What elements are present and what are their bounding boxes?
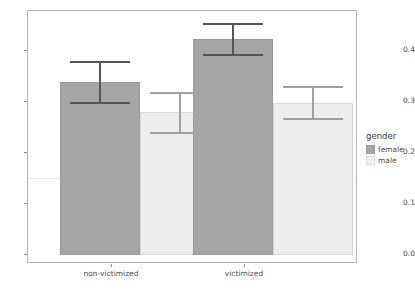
legend-swatch-female	[366, 145, 375, 154]
y-tick-label-3: 0.3	[393, 97, 415, 105]
bar-victimized-male	[273, 103, 353, 255]
x-tick-label-victimized: victimized	[225, 269, 263, 278]
bar-non-victimized-female	[60, 82, 140, 255]
y-tick-label-4: 0.4	[393, 46, 415, 54]
legend-title: gender	[366, 131, 415, 142]
errorbar-victimized-female	[203, 23, 263, 56]
x-tick-mark-1	[244, 264, 245, 267]
x-tick-mark-0	[111, 264, 112, 267]
bar-victimized-female	[193, 39, 273, 255]
y-tick-label-1: 0.1	[393, 199, 415, 207]
errorbar-stem	[232, 23, 234, 56]
errorbar-stem	[99, 61, 101, 104]
legend-label-female: female	[378, 145, 404, 154]
legend-item-male[interactable]: male	[366, 155, 415, 165]
legend-item-female[interactable]: female	[366, 144, 415, 154]
y-tick-label-0: 0.0	[393, 250, 415, 258]
legend-label-male: male	[378, 156, 397, 165]
legend-swatch-male	[366, 156, 375, 165]
errorbar-victimized-male	[283, 86, 343, 120]
legend: gender female male	[366, 131, 415, 166]
errorbar-stem	[312, 86, 314, 120]
errorbar-non-victimized-female	[70, 61, 130, 104]
x-tick-label-non-victimized: non-victimized	[84, 269, 139, 278]
errorbar-stem	[179, 92, 181, 134]
bar-chart: 0.0 0.1 0.2 0.3 0.4	[0, 0, 415, 291]
plot-panel	[27, 10, 357, 263]
